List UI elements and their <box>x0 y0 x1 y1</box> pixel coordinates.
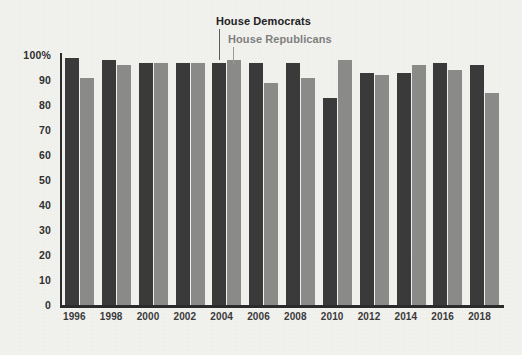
x-axis-line <box>60 305 504 308</box>
x-axis-tick-2002: 2002 <box>174 311 197 322</box>
x-axis-tick-2000: 2000 <box>137 311 160 322</box>
y-axis-tick-80: 80 <box>39 99 51 111</box>
y-axis-tick-10: 10 <box>39 274 51 286</box>
bar-republican-2008 <box>301 78 315 306</box>
bar-democrat-2010 <box>323 98 337 306</box>
bar-democrat-2004 <box>212 63 226 306</box>
y-axis-tick-70: 70 <box>39 124 51 136</box>
plot-area: 100%9080706050403020100 1996199820002002… <box>60 55 502 305</box>
bar-democrat-2012 <box>360 73 374 306</box>
bar-republican-2002 <box>191 63 205 306</box>
x-axis-tick-2018: 2018 <box>468 311 491 322</box>
y-axis-tick-30: 30 <box>39 224 51 236</box>
y-axis-tick-100pct: 100% <box>23 49 51 61</box>
x-axis-tick-2004: 2004 <box>210 311 233 322</box>
legend-label-house-republicans: House Republicans <box>228 33 332 45</box>
x-axis-tick-1996: 1996 <box>63 311 86 322</box>
bar-democrat-1996 <box>65 58 79 306</box>
bar-democrat-2016 <box>433 63 447 306</box>
bar-democrat-2018 <box>470 65 484 305</box>
bar-republican-2004 <box>227 60 241 305</box>
y-axis-tick-90: 90 <box>39 74 51 86</box>
republicans-leader-line <box>233 47 234 64</box>
bar-republican-2010 <box>338 60 352 305</box>
x-axis-tick-2014: 2014 <box>395 311 418 322</box>
bar-democrat-1998 <box>102 60 116 305</box>
bar-republican-2016 <box>448 70 462 305</box>
bar-democrat-2002 <box>176 63 190 306</box>
y-axis-tick-0: 0 <box>45 299 51 311</box>
y-axis-tick-60: 60 <box>39 149 51 161</box>
x-axis-tick-2006: 2006 <box>247 311 270 322</box>
bar-republican-2018 <box>485 93 499 306</box>
x-axis-tick-1998: 1998 <box>100 311 123 322</box>
x-axis-tick-2008: 2008 <box>284 311 307 322</box>
bar-republican-2014 <box>412 65 426 305</box>
bar-democrat-2008 <box>286 63 300 306</box>
x-axis-tick-2016: 2016 <box>431 311 454 322</box>
x-axis-tick-2012: 2012 <box>358 311 381 322</box>
democrats-leader-line <box>219 29 220 60</box>
y-axis-tick-40: 40 <box>39 199 51 211</box>
bar-republican-1998 <box>117 65 131 305</box>
bar-republican-2012 <box>375 75 389 305</box>
x-axis-tick-2010: 2010 <box>321 311 344 322</box>
bar-chart: 100%9080706050403020100 1996199820002002… <box>0 0 522 355</box>
bar-republican-2006 <box>264 83 278 306</box>
bar-democrat-2014 <box>397 73 411 306</box>
bar-democrat-2000 <box>139 63 153 306</box>
bar-republican-1996 <box>80 78 94 306</box>
legend-label-house-democrats: House Democrats <box>216 15 311 27</box>
bar-republican-2000 <box>154 63 168 306</box>
bar-democrat-2006 <box>249 63 263 306</box>
y-axis-tick-20: 20 <box>39 249 51 261</box>
y-axis-tick-50: 50 <box>39 174 51 186</box>
